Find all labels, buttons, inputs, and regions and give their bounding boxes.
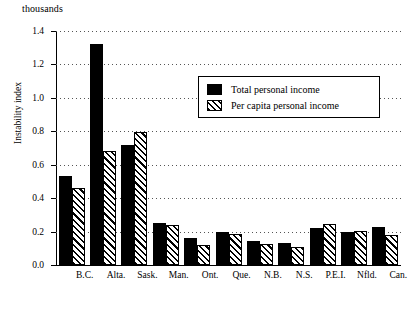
legend-entry-per-capita-personal-income: Per capita personal income (207, 99, 339, 112)
y-axis-tick-label: 1.4 (32, 26, 44, 36)
bar (260, 244, 273, 265)
bar-group (278, 31, 304, 265)
instability-index-bar-chart: thousands Instability index 0.00.20.40.6… (0, 0, 411, 310)
bar (72, 188, 85, 265)
bar (310, 228, 323, 265)
chart-legend: Total personal income Per capita persona… (198, 76, 380, 118)
legend-swatch-solid-icon (207, 84, 222, 95)
bar-group (341, 31, 367, 265)
y-axis-tick: 0.6 (51, 165, 56, 166)
x-axis-tick-label: Can. (368, 270, 411, 280)
y-axis-tick-label: 1.0 (32, 93, 44, 103)
bar (59, 176, 72, 265)
y-axis-tick: 0.2 (51, 232, 56, 233)
bar-group (310, 31, 336, 265)
y-axis-title: Instability index (13, 53, 23, 173)
bar (103, 151, 116, 265)
y-axis-tick: 0.8 (51, 131, 56, 132)
bar (216, 232, 229, 265)
y-axis-tick: 1.0 (51, 98, 56, 99)
legend-entry-total-personal-income: Total personal income (207, 83, 320, 96)
bar (134, 132, 147, 265)
bar-group (184, 31, 210, 265)
bar-group (372, 31, 398, 265)
bar (385, 235, 398, 265)
units-label: thousands (22, 3, 63, 14)
y-axis-tick-label: 0.2 (32, 227, 44, 237)
bar-group (90, 31, 116, 265)
bar (247, 241, 260, 265)
bar (229, 234, 242, 265)
bar (323, 224, 336, 265)
y-axis-tick-label: 0.0 (32, 260, 44, 270)
y-axis-tick: 1.2 (51, 64, 56, 65)
bar (372, 227, 385, 265)
bar (354, 231, 367, 265)
bar (153, 223, 166, 265)
bar (121, 145, 134, 265)
bar-group (153, 31, 179, 265)
y-axis-tick: 0.0 (51, 265, 56, 266)
bar (184, 238, 197, 265)
bar (166, 225, 179, 265)
bar (341, 232, 354, 265)
bar (197, 245, 210, 265)
legend-label: Per capita personal income (231, 100, 339, 111)
y-axis-tick-label: 0.8 (32, 126, 44, 136)
bar-group (121, 31, 147, 265)
bar-group (59, 31, 85, 265)
y-axis-tick-label: 0.6 (32, 160, 44, 170)
plot-area: 0.00.20.40.60.81.01.21.4 B.C.Alta.Sask.M… (56, 31, 401, 265)
y-axis-tick-label: 1.2 (32, 59, 44, 69)
bar-group (216, 31, 242, 265)
bar (291, 247, 304, 265)
legend-swatch-hatch-icon (207, 100, 222, 111)
bar-group (247, 31, 273, 265)
y-axis-tick-label: 0.4 (32, 193, 44, 203)
y-axis-tick: 1.4 (51, 31, 56, 32)
y-axis-tick: 0.4 (51, 198, 56, 199)
bar (278, 243, 291, 265)
legend-label: Total personal income (231, 84, 320, 95)
bar (90, 44, 103, 265)
x-axis-line (56, 265, 401, 266)
